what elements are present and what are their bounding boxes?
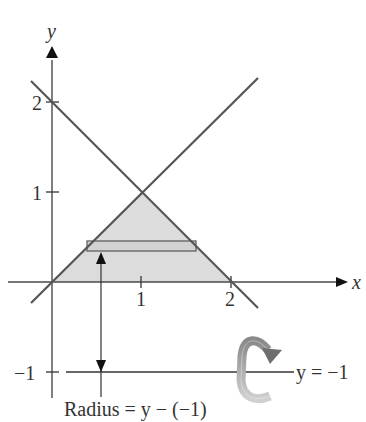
- radius-arrowhead-down-icon: [96, 360, 106, 372]
- y-tick-label-neg1: −1: [14, 362, 35, 384]
- y-axis-arrowhead-icon: [46, 46, 58, 58]
- y-tick-label-2: 2: [32, 92, 42, 114]
- diagram-canvas: y x 2 1 −1 1 2 y = −1 Radius = y − (−1): [0, 0, 366, 422]
- shaded-region: [52, 192, 231, 282]
- representative-rectangle: [87, 241, 196, 251]
- rotation-arrow-icon: [241, 341, 282, 399]
- x-axis-arrowhead-icon: [336, 277, 348, 287]
- x-tick-label-2: 2: [225, 288, 235, 310]
- y-axis-label: y: [45, 20, 56, 43]
- axis-of-revolution-label: y = −1: [296, 361, 349, 384]
- x-axis-label: x: [351, 271, 361, 293]
- radius-label: Radius = y − (−1): [64, 398, 207, 421]
- y-tick-label-1: 1: [32, 182, 42, 204]
- x-tick-label-1: 1: [136, 288, 146, 310]
